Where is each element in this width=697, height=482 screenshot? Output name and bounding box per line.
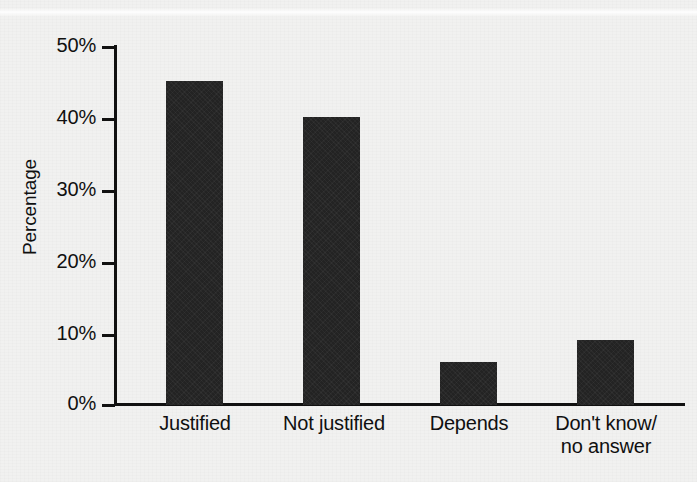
x-label-line1: Not justified <box>263 412 405 435</box>
bar-not-justified <box>303 117 360 405</box>
bar-dont-know <box>577 340 634 405</box>
x-label-line1: Depends <box>400 412 538 435</box>
bar-depends <box>440 362 497 405</box>
bar-justified <box>166 81 223 405</box>
y-axis-title: Percentage <box>19 117 41 297</box>
x-label-line2: no answer <box>531 435 681 458</box>
x-label-justified: Justified <box>126 412 264 435</box>
y-axis-line <box>114 45 117 406</box>
x-label-dont-know: Don't know/ no answer <box>531 412 681 458</box>
x-label-line1: Don't know/ <box>531 412 681 435</box>
y-tick-label: 20% <box>0 251 114 271</box>
y-tick-label: 30% <box>0 179 114 199</box>
y-tick-label: 50% <box>0 35 114 55</box>
bar-chart-figure: 50% 40% 30% 20% 10% 0% Justified <box>0 0 697 482</box>
x-label-not-justified: Not justified <box>263 412 405 435</box>
y-tick-label: 0% <box>0 393 114 413</box>
y-tick-label: 10% <box>0 323 114 343</box>
plot-area: 50% 40% 30% 20% 10% 0% Justified <box>0 0 697 482</box>
x-label-line1: Justified <box>126 412 264 435</box>
x-label-depends: Depends <box>400 412 538 435</box>
y-tick-label: 40% <box>0 107 114 127</box>
